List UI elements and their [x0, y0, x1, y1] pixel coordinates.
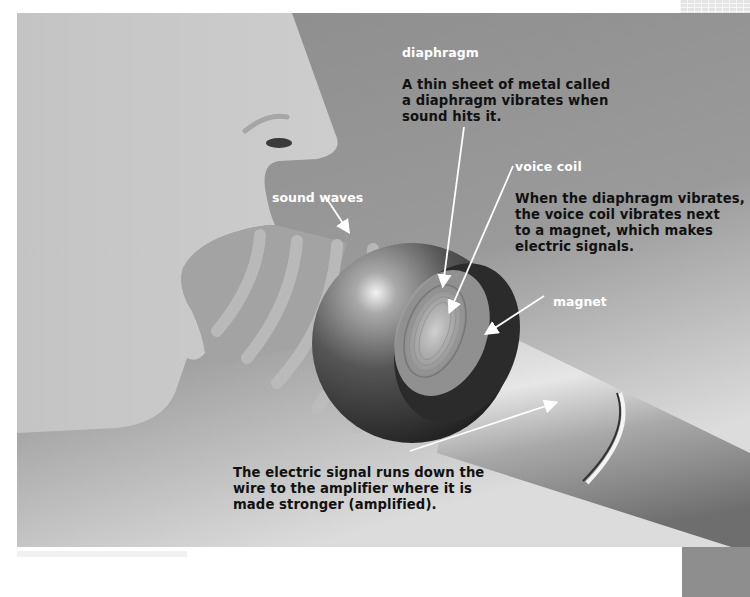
voice-coil-callout-title: voice coil [515, 159, 745, 175]
diaphragm-callout-title: diaphragm [402, 45, 610, 61]
nostril [266, 138, 292, 148]
sound-waves-label: sound waves [272, 190, 363, 205]
footer-strip [17, 551, 187, 557]
corner-block-decoration [682, 547, 750, 597]
voice-coil-callout: voice coil When the diaphragm vibrates, … [515, 143, 745, 271]
magnet-label: magnet [553, 294, 607, 309]
microphone-illustration: sound waves magnet diaphragm A thin shee… [17, 13, 750, 547]
corner-grid-decoration [680, 0, 750, 13]
signal-callout-body: The electric signal runs down the wire t… [233, 465, 484, 513]
signal-callout: The electric signal runs down the wire t… [233, 449, 484, 529]
diaphragm-callout-body: A thin sheet of metal called a diaphragm… [402, 77, 610, 125]
voice-coil-callout-body: When the diaphragm vibrates, the voice c… [515, 191, 745, 255]
diaphragm-callout: diaphragm A thin sheet of metal called a… [402, 29, 610, 141]
